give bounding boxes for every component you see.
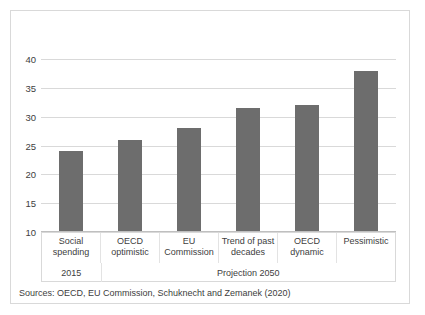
y-axis-tick-label: 25 [25, 140, 36, 151]
category-label-row: Social spendingOECD optimisticEU Commiss… [42, 233, 395, 263]
category-axis-table: Social spendingOECD optimisticEU Commiss… [41, 232, 396, 282]
bar [354, 71, 378, 232]
category-label: Trend of past decades [218, 233, 277, 263]
gridline [41, 174, 396, 175]
plot-area: 10152025303540 [41, 59, 396, 232]
category-label: Pessimistic [336, 233, 395, 263]
category-label: OECD dynamic [277, 233, 336, 263]
gridline [41, 203, 396, 204]
bar [295, 105, 319, 232]
bar [177, 128, 201, 232]
gridline [41, 88, 396, 89]
group-label: 2015 [42, 263, 101, 282]
category-label: OECD optimistic [100, 233, 159, 263]
y-axis-tick-label: 20 [25, 169, 36, 180]
gridline [41, 146, 396, 147]
group-label: Projection 2050 [101, 263, 395, 282]
group-label-row: 2015Projection 2050 [42, 263, 395, 282]
bar [118, 140, 142, 232]
y-axis-tick-label: 10 [25, 227, 36, 238]
y-axis-tick-label: 30 [25, 111, 36, 122]
chart-figure: 10152025303540 Social spendingOECD optim… [10, 10, 410, 304]
y-axis-tick-label: 35 [25, 82, 36, 93]
bar [236, 108, 260, 232]
gridline [41, 117, 396, 118]
bar [59, 151, 83, 232]
category-label: Social spending [42, 233, 100, 263]
y-axis-tick-label: 15 [25, 198, 36, 209]
y-axis-tick-label: 40 [25, 54, 36, 65]
category-label: EU Commission [159, 233, 218, 263]
source-note: Sources: OECD, EU Commission, Schuknecht… [19, 288, 291, 298]
gridline [41, 59, 396, 60]
